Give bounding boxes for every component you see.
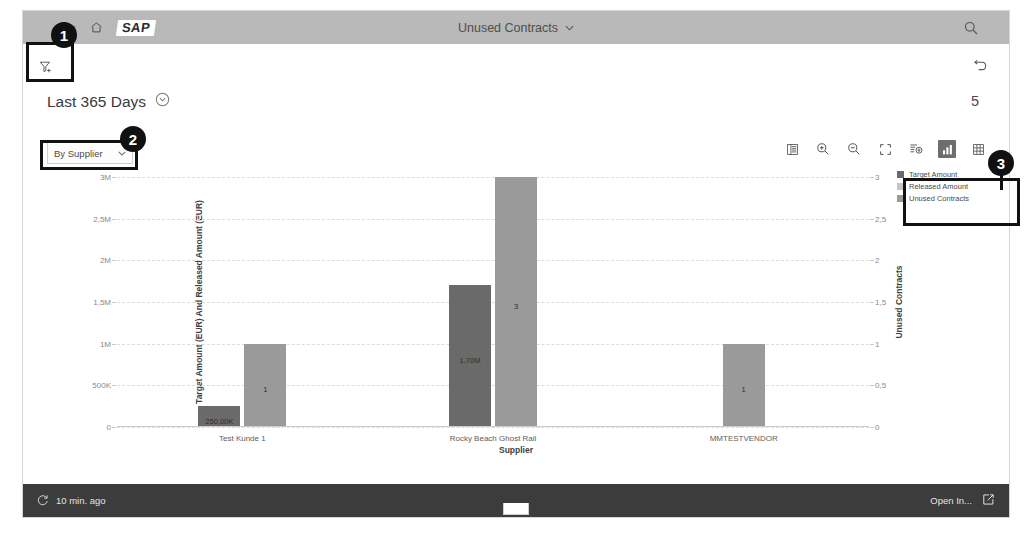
annotation-badge-2: 2 (120, 126, 146, 152)
y2-axis-tick-mark (870, 219, 874, 220)
legend-swatch (897, 183, 904, 190)
bar-group: 1MMTESTVENDOR (618, 177, 869, 427)
gridline (117, 427, 869, 428)
bottom-handle (503, 503, 529, 515)
chart-bar[interactable]: 1,70M (449, 285, 491, 427)
y-axis-tick-label: 2,5M (93, 214, 111, 223)
legend-label: Released Amount (909, 182, 968, 191)
filter-button[interactable] (29, 52, 62, 82)
chevron-circle-down-icon[interactable] (155, 92, 170, 111)
table-view-icon[interactable] (969, 140, 987, 158)
y2-axis-tick-mark (870, 385, 874, 386)
bar-group-bars: 1 (618, 177, 869, 427)
zoom-out-icon[interactable] (845, 140, 863, 158)
legend-swatch (897, 171, 904, 178)
y2-axis-tick-mark (870, 344, 874, 345)
details-icon[interactable] (783, 140, 801, 158)
date-range-selector[interactable]: Last 365 Days (47, 92, 170, 111)
app-window: ‹ SAP Unused Contracts (22, 10, 1010, 518)
undo-icon[interactable] (971, 56, 989, 74)
refresh-timestamp: 10 min. ago (56, 495, 106, 506)
refresh-icon[interactable] (37, 494, 49, 508)
kpi-count: 5 (971, 93, 979, 109)
footer-refresh[interactable]: 10 min. ago (23, 494, 106, 508)
footer-open-in[interactable]: Open In... (930, 493, 995, 508)
annotation-badge-1: 1 (51, 22, 77, 48)
kpi-row: Last 365 Days 5 (23, 88, 1009, 124)
y-axis-tick-mark (112, 260, 116, 261)
y-axis-tick-mark (112, 219, 116, 220)
bar-value-label: 250,00K (198, 417, 240, 426)
bar-value-label: 1 (244, 385, 286, 394)
chart-bar[interactable]: 1 (244, 344, 286, 427)
chevron-down-icon[interactable] (565, 22, 574, 33)
legend-item[interactable]: Released Amount (897, 182, 989, 191)
y-axis-tick-mark (112, 427, 116, 428)
x-axis-title: Supplier (23, 445, 1009, 455)
chevron-down-icon[interactable] (118, 149, 126, 158)
chart-bar[interactable]: 3 (495, 177, 537, 427)
dimension-select-value: By Supplier (54, 148, 103, 159)
y-axis-tick-mark (112, 177, 116, 178)
app-title-text: Unused Contracts (458, 21, 558, 35)
chart-bar[interactable]: 1 (723, 344, 765, 427)
y2-axis-tick-label: 0 (875, 423, 879, 432)
y-axis-tick-label: 2M (100, 256, 111, 265)
y-axis-tick-label: 1M (100, 339, 111, 348)
chart-container: By Supplier (23, 134, 1009, 484)
legend-item[interactable]: Unused Contracts (897, 194, 989, 203)
screenshot-root: ‹ SAP Unused Contracts (0, 0, 1032, 536)
drill-down-icon[interactable] (907, 140, 925, 158)
shell-header: ‹ SAP Unused Contracts (23, 11, 1009, 44)
x-axis-tick-label: MMTESTVENDOR (598, 434, 889, 443)
chart-plot: Target Amount (EUR) And Released Amount … (89, 177, 869, 427)
y2-axis-tick-mark (870, 302, 874, 303)
bar-groups: 250,00K1Test Kunde 11,70M3Rocky Beach Gh… (117, 177, 869, 427)
y2-axis-tick-label: 0,5 (875, 381, 886, 390)
legend-swatch (897, 195, 904, 202)
bar-value-label: 3 (495, 302, 537, 311)
app-title-bar[interactable]: Unused Contracts (23, 11, 1009, 44)
y-axis-tick-mark (112, 302, 116, 303)
chart-view-icon[interactable] (938, 140, 956, 158)
y-axis-tick-label: 500K (92, 381, 111, 390)
legend-label: Unused Contracts (909, 194, 969, 203)
y2-axis-title: Unused Contracts (893, 265, 903, 338)
x-axis-tick-label: Test Kunde 1 (97, 434, 388, 443)
page-body: Last 365 Days 5 By Supplier (23, 44, 1009, 486)
legend-item[interactable]: Target Amount (897, 170, 989, 179)
annotation-badge-3: 3 (988, 150, 1014, 176)
x-axis-tick-label: Rocky Beach Ghost Rail (348, 434, 639, 443)
y2-axis-tick-label: 2 (875, 256, 879, 265)
open-in-label: Open In... (930, 495, 972, 506)
y2-axis-tick-label: 3 (875, 173, 879, 182)
bar-value-label: 1,70M (449, 356, 491, 365)
y2-axis-tick-mark (870, 177, 874, 178)
external-link-icon[interactable] (982, 493, 995, 508)
plot-inner: 0500K1M1,5M2M2,5M3M 00,511,522,53 250,00… (117, 177, 869, 427)
date-range-label: Last 365 Days (47, 93, 146, 111)
bar-value-label: 1 (723, 385, 765, 394)
y2-axis-tick-mark (870, 427, 874, 428)
search-icon[interactable] (963, 20, 979, 36)
y-axis-tick-mark (112, 385, 116, 386)
y2-axis-tick-mark (870, 260, 874, 261)
chart-legend: Target AmountReleased AmountUnused Contr… (891, 164, 995, 212)
bar-group: 250,00K1Test Kunde 1 (117, 177, 368, 427)
fullscreen-icon[interactable] (876, 140, 894, 158)
y-axis-tick-mark (112, 344, 116, 345)
bar-group-bars: 1,70M3 (368, 177, 619, 427)
y2-axis-tick-label: 1,5 (875, 298, 886, 307)
chart-toolbar (783, 140, 987, 158)
zoom-in-icon[interactable] (814, 140, 832, 158)
y-axis-tick-label: 3M (100, 173, 111, 182)
axis-baseline (117, 426, 869, 427)
y2-axis-tick-label: 2,5 (875, 214, 886, 223)
y-axis-tick-label: 1,5M (93, 298, 111, 307)
dimension-select[interactable]: By Supplier (47, 142, 133, 164)
chart-bar[interactable]: 250,00K (198, 406, 240, 427)
bar-group-bars: 250,00K1 (117, 177, 368, 427)
bar-group: 1,70M3Rocky Beach Ghost Rail (368, 177, 619, 427)
legend-label: Target Amount (909, 170, 957, 179)
y-axis-tick-label: 0 (107, 423, 111, 432)
